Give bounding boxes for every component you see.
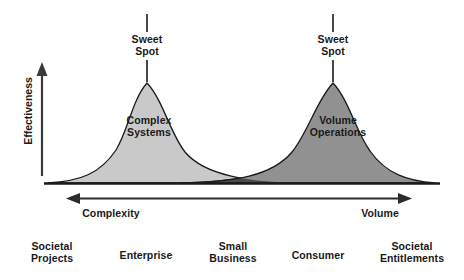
sweet-spot-left-label: Sweet Spot — [117, 33, 177, 58]
category-label-societal-entitlements: Societal Entitlements — [362, 240, 462, 265]
diagram-svg — [0, 0, 464, 280]
x-axis-double-arrow — [66, 193, 412, 204]
category-label-enterprise: Enterprise — [100, 249, 192, 261]
category-label-societal-projects: Societal Projects — [8, 240, 96, 265]
diagram-canvas: Effectiveness Sweet Spot Sweet Spot Comp… — [0, 0, 464, 280]
y-axis-arrow — [37, 62, 48, 176]
curve-label-volume-operations: Volume Operations — [297, 114, 379, 139]
curve-label-complex-systems: Complex Systems — [112, 114, 186, 139]
sweet-spot-right-label: Sweet Spot — [303, 33, 363, 58]
category-label-small-business: Small Business — [193, 240, 273, 265]
y-axis-label: Effectiveness — [22, 69, 34, 153]
category-label-consumer: Consumer — [275, 249, 361, 261]
x-axis-left-label: Complexity — [66, 207, 156, 219]
x-axis-right-label: Volume — [340, 207, 420, 219]
